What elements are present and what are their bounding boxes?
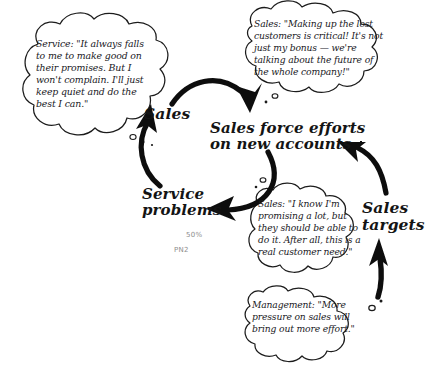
thought-bubble-sales-bonus-trail xyxy=(265,94,278,104)
thought-bubble-management-text: Management: "More pressure on sales will… xyxy=(252,299,368,335)
thought-bubble-service-text: Service: "It always falls to me to make … xyxy=(36,38,148,110)
arrow-management-to-targets xyxy=(369,238,388,297)
node-label-sales-targets: Sales targets xyxy=(362,200,425,233)
thought-bubble-sales-promise-text: Sales: "I know I'm promising a lot, but … xyxy=(258,198,362,258)
pencil-annotation-code: PN2 xyxy=(174,246,189,254)
node-label-sales-force-efforts: Sales force efforts on new accounts xyxy=(210,120,365,152)
thought-bubble-sales-bonus-text: Sales: "Making up the lost customers is … xyxy=(254,18,386,78)
thought-bubble-sales-promise-trail xyxy=(255,178,266,189)
node-label-service-problems: Service problems xyxy=(142,186,221,218)
node-label-sales: Sales xyxy=(144,106,190,123)
pencil-annotation-percent: 50% xyxy=(186,231,202,239)
thought-bubble-management-trail xyxy=(369,300,383,311)
